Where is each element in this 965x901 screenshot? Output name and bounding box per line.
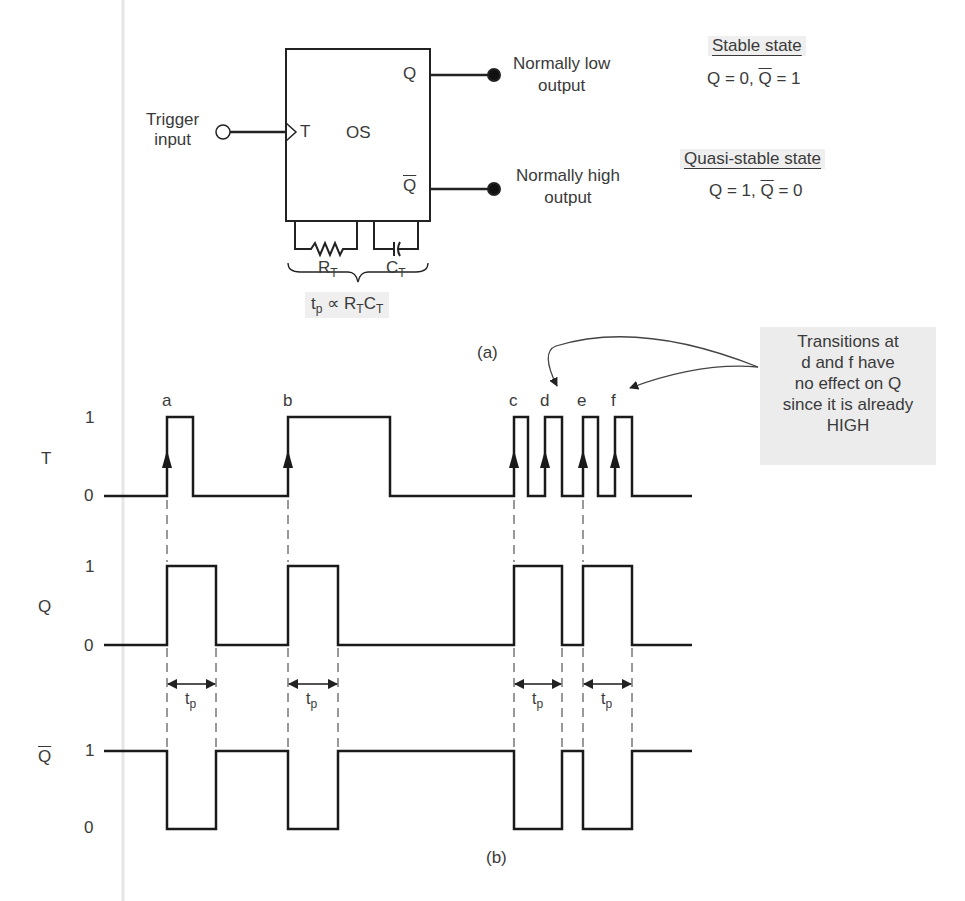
annotation-note: Transitions at d and f have no effect on… (760, 327, 936, 465)
rising-edge-arrow-icon (610, 450, 620, 468)
signal-label-q: Q (38, 597, 51, 617)
waveform-qbar (104, 751, 692, 829)
t-level-1: 1 (85, 408, 94, 428)
block-name: OS (346, 123, 371, 143)
stable-state-values: Q = 0, Q = 1 (707, 69, 801, 89)
trigger-input-label: Trigger input (146, 110, 199, 150)
qbar-pin-label: Q (403, 176, 416, 196)
t-level-0: 0 (84, 486, 93, 506)
brace (288, 263, 428, 282)
clock-triangle-icon (286, 123, 296, 141)
capacitor-label: CT (386, 258, 406, 280)
signal-label-qbar: Q (38, 747, 51, 767)
q-level-0: 0 (84, 636, 93, 656)
qbar-level-1: 1 (85, 741, 94, 761)
pulse-width-formula: tp ∝ RTCT (305, 292, 389, 318)
trigger-label-e: e (577, 391, 586, 411)
trigger-label-b: b (283, 391, 292, 411)
tp-label-c: tp (532, 690, 543, 711)
q-pin-label: Q (403, 64, 416, 84)
trigger-label-d: d (540, 391, 549, 411)
capacitor-symbol (374, 221, 393, 249)
quasi-stable-state-title: Quasi-stable state (680, 149, 825, 169)
rising-edge-arrow-icon (540, 450, 550, 468)
rising-edge-arrow-icon (162, 450, 172, 468)
note-arrows (548, 337, 758, 388)
tp-label-e: tp (601, 690, 612, 711)
resistor-label: RT (318, 258, 338, 280)
tp-label-b: tp (306, 690, 317, 711)
timing-waveforms (104, 417, 692, 829)
waveform-q (104, 566, 692, 645)
rising-edge-arrow-icon (578, 450, 588, 468)
trigger-label-a: a (162, 391, 171, 411)
trigger-input-terminal (216, 125, 230, 139)
trigger-label-f: f (611, 391, 616, 411)
qbar-level-0: 0 (84, 818, 93, 838)
caption-b: (b) (486, 848, 507, 868)
qbar-output-terminal (488, 183, 500, 195)
waveform-t (104, 417, 692, 496)
trigger-pin-label: T (300, 122, 310, 142)
qbar-output-label: Normally high output (516, 165, 620, 209)
one-shot-block (216, 49, 500, 282)
q-level-1: 1 (85, 557, 94, 577)
quasi-stable-state-values: Q = 1, Q = 0 (709, 181, 803, 201)
q-output-terminal (488, 69, 500, 81)
rising-edge-arrow-icon (509, 450, 519, 468)
rising-edge-arrow-icon (283, 450, 293, 468)
caption-a: (a) (477, 343, 498, 363)
signal-label-t: T (41, 449, 51, 469)
q-output-label: Normally low output (513, 53, 610, 97)
resistor-symbol (295, 221, 357, 255)
trigger-label-c: c (509, 391, 518, 411)
stable-state-title: Stable state (708, 36, 806, 56)
tp-label-a: tp (185, 690, 196, 711)
